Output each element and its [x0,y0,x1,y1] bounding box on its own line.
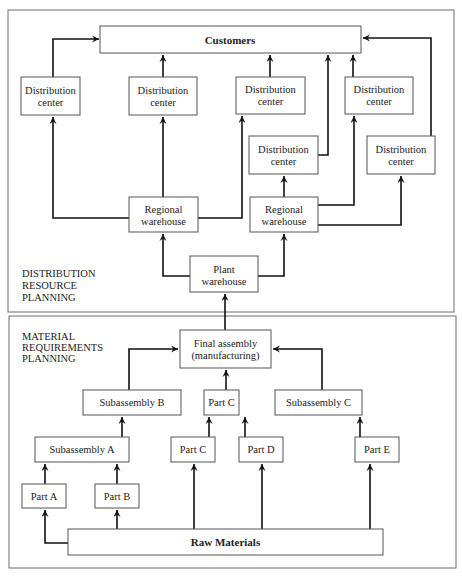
dc4-label-line1: Distribution [354,84,406,95]
distribution-center-3: Distribution center [236,77,305,114]
regional-warehouse-2: Regional warehouse [250,197,318,232]
plant-label-line2: warehouse [202,276,247,287]
dc6-label-line1: Distribution [376,144,428,155]
regional-warehouse-1: Regional warehouse [129,197,198,232]
plant-label-line1: Plant [213,264,235,275]
mrp-label-line2: REQUIREMENTS [22,342,103,353]
arrow-subb-final [129,349,178,390]
part-d-label: Part D [247,444,275,455]
dc6-label-line2: center [388,156,414,167]
mrp-section-label: MATERIAL REQUIREMENTS PLANNING [22,331,103,364]
raw-materials-label: Raw Materials [191,536,261,548]
arrow-rw2-dc4 [318,116,354,205]
part-d-node: Part D [239,437,283,462]
arrow-rw2-dc6 [318,176,401,225]
final-assembly-label-line2: (manufacturing) [191,350,260,362]
final-assembly-node: Final assembly (manufacturing) [180,330,271,368]
arrow-dc1-customers [53,39,99,77]
dc2-label-line1: Distribution [138,85,190,96]
raw-materials-node: Raw Materials [68,529,383,555]
distribution-center-4: Distribution center [345,77,413,114]
part-c-upper-node: Part C [204,390,239,415]
part-e-label: Part E [364,444,390,455]
drp-label-line2: RESOURCE [22,280,77,291]
dc1-label-line2: center [38,97,64,108]
part-c-upper-label: Part C [208,397,235,408]
dc5-label-line1: Distribution [258,144,310,155]
part-c-lower-label: Part C [180,444,207,455]
rw1-label-line2: warehouse [141,216,186,227]
part-b-node: Part B [95,484,139,508]
part-e-node: Part E [355,437,399,462]
final-assembly-label-line1: Final assembly [194,338,258,349]
rw2-label-line1: Regional [265,204,303,215]
subassembly-c-label: Subassembly C [286,397,351,408]
distribution-center-2: Distribution center [129,77,197,115]
customers-node: Customers [100,26,361,53]
arrow-subc-final [273,349,322,390]
mrp-label-line3: PLANNING [22,353,76,364]
arrow-raw-parta [45,510,68,543]
dc2-label-line2: center [150,97,176,108]
drp-mrp-diagram: Customers Distribution center Distributi… [0,0,462,577]
subassembly-a-label: Subassembly A [49,444,114,455]
drp-label-line1: DISTRIBUTION [22,268,96,279]
distribution-center-5: Distribution center [249,136,318,174]
distribution-center-1: Distribution center [21,77,80,115]
dc5-label-line2: center [271,156,297,167]
arrow-plant-rw2 [258,234,284,276]
dc1-label-line1: Distribution [25,85,77,96]
dc3-label-line1: Distribution [245,84,297,95]
part-b-label: Part B [104,491,131,502]
subassembly-a-node: Subassembly A [35,437,129,462]
subassembly-b-label: Subassembly B [99,397,164,408]
subassembly-c-node: Subassembly C [275,390,362,415]
distribution-center-6: Distribution center [367,136,435,174]
customers-label: Customers [205,34,256,46]
part-a-label: Part A [31,491,58,502]
drp-section-label: DISTRIBUTION RESOURCE PLANNING [22,268,96,303]
rw1-label-line1: Regional [145,204,183,215]
subassembly-b-node: Subassembly B [83,390,181,415]
dc3-label-line2: center [258,96,284,107]
arrow-plant-rw1 [163,234,190,276]
mrp-label-line1: MATERIAL [22,331,75,342]
part-c-lower-node: Part C [171,437,215,462]
arrow-dc5-customers [318,55,328,155]
dc4-label-line2: center [366,96,392,107]
arrow-rw1-dc3 [198,116,242,218]
part-a-node: Part A [22,484,66,508]
rw2-label-line2: warehouse [262,216,307,227]
arrow-rw1-dc1 [53,117,129,218]
plant-warehouse: Plant warehouse [190,256,258,292]
drp-label-line3: PLANNING [22,292,76,303]
